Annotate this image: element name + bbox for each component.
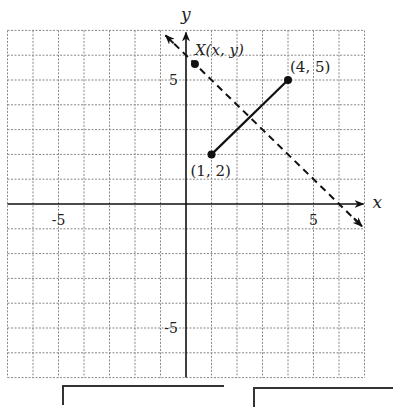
- y-tick-label: -5: [164, 320, 178, 336]
- point-x: [191, 60, 199, 68]
- point-b: [284, 76, 292, 84]
- point-a: [208, 150, 216, 158]
- dashed-line-arrow-start: [166, 35, 174, 43]
- y-axis-label: y: [180, 4, 191, 24]
- point-label-b: (4, 5): [290, 58, 330, 76]
- y-tick-label: 5: [169, 72, 178, 88]
- plot-elements: [166, 35, 362, 226]
- point-label-a: (1, 2): [191, 162, 231, 180]
- answer-box-2[interactable]: [253, 387, 393, 407]
- point-label-x: X(x, y): [194, 41, 244, 59]
- x-axis-label: x: [373, 192, 383, 212]
- labels: xy-555-5(1, 2)(4, 5)X(x, y): [52, 4, 383, 336]
- axes: [8, 32, 364, 377]
- answer-box-1[interactable]: [62, 385, 224, 405]
- dashed-line-arrow-end: [354, 218, 362, 226]
- x-tick-label: 5: [309, 212, 318, 228]
- x-tick-label: -5: [52, 212, 66, 228]
